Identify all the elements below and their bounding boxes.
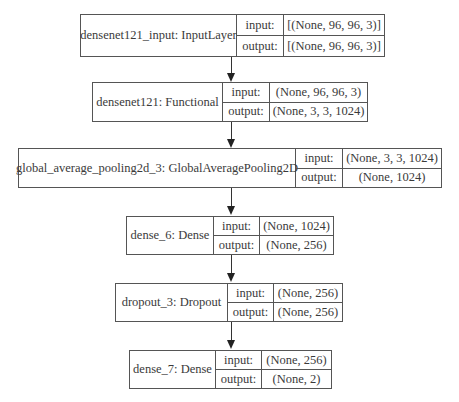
input-shape: (None, 256)	[262, 351, 331, 370]
input-label: input:	[228, 284, 273, 303]
edge-line	[231, 322, 232, 341]
layer-name: densenet121: Functional	[93, 83, 223, 121]
layer-node-dense-6: dense_6: Dense input: output: (None, 102…	[126, 216, 334, 255]
output-shape: (None, 3, 3, 1024)	[270, 103, 367, 122]
input-shape: [(None, 96, 96, 3)]	[284, 15, 384, 36]
input-label: input:	[216, 351, 261, 370]
output-label: output:	[214, 236, 259, 254]
layer-name: dense_6: Dense	[127, 217, 214, 254]
layer-node-dropout-3: dropout_3: Dropout input: output: (None,…	[115, 283, 343, 322]
arrow-down-icon	[227, 340, 235, 349]
layer-node-densenet121-input: densenet121_input: InputLayer input: out…	[80, 14, 385, 57]
output-shape: [(None, 96, 96, 3)]	[284, 36, 384, 56]
output-label: output:	[237, 36, 283, 56]
layer-name: densenet121_input: InputLayer	[81, 15, 237, 56]
output-shape: (None, 1024)	[343, 169, 441, 188]
input-label: input:	[296, 149, 342, 169]
input-label: input:	[237, 15, 283, 36]
output-label: output:	[228, 303, 273, 321]
input-shape: (None, 256)	[274, 284, 342, 303]
output-shape: (None, 256)	[260, 236, 333, 254]
input-shape: (None, 3, 3, 1024)	[343, 149, 441, 169]
arrow-down-icon	[227, 139, 235, 148]
arrow-down-icon	[227, 73, 235, 82]
layer-node-dense-7: dense_7: Dense input: output: (None, 256…	[129, 350, 332, 389]
output-label: output:	[216, 370, 261, 388]
input-shape: (None, 1024)	[260, 217, 333, 236]
output-shape: (None, 2)	[262, 370, 331, 388]
layer-node-global-average-pooling: global_average_pooling2d_3: GlobalAverag…	[18, 148, 442, 188]
input-label: input:	[214, 217, 259, 236]
layer-name: global_average_pooling2d_3: GlobalAverag…	[19, 149, 296, 187]
output-shape: (None, 256)	[274, 303, 342, 321]
arrow-down-icon	[227, 206, 235, 215]
edge-line	[231, 188, 232, 207]
output-label: output:	[223, 103, 269, 122]
layer-name: dense_7: Dense	[130, 351, 216, 388]
edge-line	[231, 122, 232, 140]
arrow-down-icon	[227, 273, 235, 282]
input-shape: (None, 96, 96, 3)	[270, 83, 367, 103]
edge-line	[231, 57, 232, 74]
layer-name: dropout_3: Dropout	[116, 284, 228, 321]
output-label: output:	[296, 169, 342, 188]
input-label: input:	[223, 83, 269, 103]
edge-line	[231, 255, 232, 274]
layer-node-densenet121: densenet121: Functional input: output: (…	[92, 82, 368, 122]
